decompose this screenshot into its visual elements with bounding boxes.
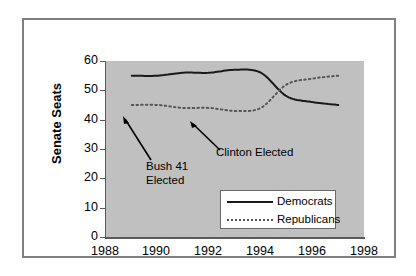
dotted-line-swatch: [227, 219, 273, 221]
solid-line-swatch: [227, 201, 273, 203]
series-layer: [24, 20, 398, 260]
legend-item-democrats[interactable]: Democrats: [221, 192, 337, 211]
series-line-republicans: [132, 76, 338, 111]
legend-label-democrats: Democrats: [277, 194, 333, 209]
annotation-bush-41-elected: Bush 41 Elected: [146, 160, 226, 187]
annotation-clinton-elected: Clinton Elected: [216, 146, 326, 160]
senate-seats-chart-figure: 60 50 40 30 20 10 0 1988 1990 1992 1994 …: [0, 0, 416, 276]
legend-item-republicans[interactable]: Republicans: [221, 210, 337, 229]
chart-outer-frame: 60 50 40 30 20 10 0 1988 1990 1992 1994 …: [22, 18, 396, 258]
series-line-democrats: [132, 70, 338, 105]
legend: Democrats Republicans: [220, 190, 336, 229]
legend-label-republicans: Republicans: [277, 212, 340, 227]
bush-annotation-arrow-head: [123, 116, 129, 124]
bush-annotation-arrow-line: [125, 119, 151, 160]
